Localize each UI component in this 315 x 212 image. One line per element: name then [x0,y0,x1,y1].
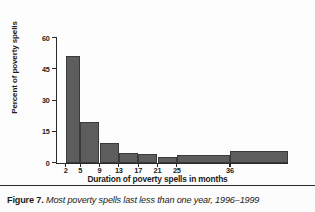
y-tick: 0 [52,162,56,163]
y-tick-label: 45 [42,64,50,73]
y-axis-title: Percent of poverty spells [10,8,19,128]
y-tick: 45 [52,68,56,69]
bar [80,122,99,163]
y-axis-line [56,37,57,164]
y-tick-mark [52,37,56,38]
x-axis-title: Duration of poverty spells in months [0,174,315,184]
y-tick-mark [52,68,56,69]
y-tick-label: 30 [42,96,50,105]
y-tick: 60 [52,37,56,38]
x-axis-line [56,163,288,164]
y-tick: 30 [52,100,56,101]
bar [230,151,288,162]
caption-title: Most poverty spells last less than one y… [46,195,259,205]
bar [138,154,157,162]
y-tick: 15 [52,131,56,132]
y-tick-label: 0 [46,158,50,167]
bar [158,157,177,162]
figure-caption: Figure 7. Most poverty spells last less … [0,185,315,212]
y-tick-mark [52,131,56,132]
bar [100,143,119,163]
y-tick-label: 15 [42,127,50,136]
figure-container: 015304560 2591317212536 Percent of pover… [0,0,315,212]
caption-label: Figure 7. [7,195,44,205]
bar [119,153,138,162]
bar [177,155,230,162]
bar-chart: 015304560 2591317212536 Percent of pover… [0,0,315,178]
y-tick-label: 60 [42,33,50,42]
caption-text: Figure 7. Most poverty spells last less … [0,195,259,205]
y-tick-mark [52,100,56,101]
y-tick-mark [52,162,56,163]
bar [66,56,81,162]
